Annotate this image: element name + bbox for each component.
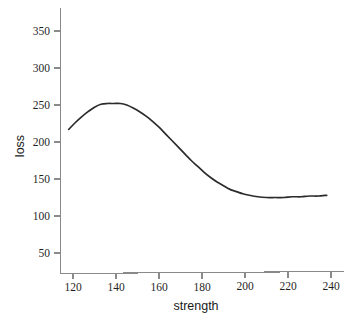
x-tick-label: 160 <box>150 281 168 293</box>
x-tick-label: 140 <box>107 281 125 293</box>
y-tick-label: 50 <box>39 247 51 259</box>
x-tick-label: 220 <box>279 280 297 292</box>
x-tick-label: 240 <box>322 280 340 292</box>
y-tick-label: 250 <box>33 99 51 111</box>
line-chart: 50100150200250300350 1201401601802002202… <box>0 0 344 333</box>
x-tick-label: 120 <box>64 281 82 293</box>
x-tick-label: 200 <box>236 280 254 292</box>
y-tick-label: 200 <box>33 136 51 148</box>
x-tick-label: 180 <box>193 281 211 293</box>
y-tick-label: 300 <box>33 62 51 74</box>
y-axis-ticks: 50100150200250300350 <box>33 25 61 259</box>
x-axis-title: strength <box>173 299 218 313</box>
y-axis-title: loss <box>13 135 27 157</box>
y-tick-label: 350 <box>33 25 51 37</box>
data-series-loss <box>69 103 327 197</box>
y-tick-label: 100 <box>33 210 51 222</box>
y-tick-label: 150 <box>33 173 51 185</box>
x-axis-ticks: 120140160180200220240 <box>64 272 340 294</box>
chart-container: 50100150200250300350 1201401601802002202… <box>0 0 344 333</box>
